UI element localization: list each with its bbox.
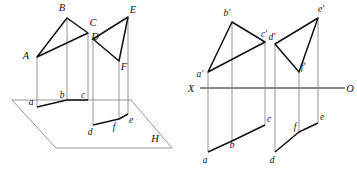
pictorial-view: A B C D E F a b c d f e H [12, 2, 172, 148]
projector-lines-pictorial [37, 17, 128, 125]
label-e-horizontal: e [320, 112, 324, 122]
label-f-pictorial: f [113, 122, 117, 132]
projection-def-horizontal [275, 123, 318, 152]
geometry-figure: A B C D E F a b c d f e H [0, 0, 357, 169]
label-f-horizontal: f [294, 122, 298, 132]
plane-h-outline [12, 100, 172, 148]
label-D: D [90, 31, 99, 42]
label-E: E [129, 4, 137, 15]
label-b-prime: b' [224, 8, 232, 18]
label-F: F [120, 61, 128, 72]
label-a-pictorial: a [29, 97, 34, 107]
label-A: A [22, 50, 30, 61]
orthographic-view: b' c' a' e' d' f' X O c b a e f d [187, 4, 354, 165]
label-c-pictorial: c [81, 90, 86, 100]
label-b-pictorial: b [60, 90, 65, 100]
label-d-pictorial: d [88, 127, 93, 137]
label-e-prime: e' [318, 4, 325, 14]
label-e-pictorial: e [129, 115, 133, 125]
label-axis-X: X [187, 83, 195, 94]
label-b-horizontal: b [230, 140, 235, 150]
label-a-horizontal: a [203, 155, 208, 165]
triangle-ABC [37, 18, 88, 57]
label-d-prime: d' [269, 32, 277, 42]
triangle-abc-frontal [208, 22, 265, 72]
figure-canvas: A B C D E F a b c d f e H [0, 0, 357, 169]
label-a-prime: a' [197, 69, 205, 79]
label-axis-O: O [346, 83, 354, 94]
label-plane-H: H [150, 133, 160, 144]
label-d-horizontal: d [270, 155, 275, 165]
triangle-def-frontal [275, 18, 318, 72]
projection-abc-pictorial [37, 100, 88, 107]
label-B: B [59, 2, 66, 13]
projection-def-pictorial [93, 114, 128, 125]
label-C: C [89, 17, 97, 28]
label-f-prime: f' [301, 62, 307, 72]
projection-abc-horizontal [208, 125, 265, 152]
label-c-prime: c' [261, 29, 268, 39]
label-c-horizontal: c [267, 114, 272, 124]
